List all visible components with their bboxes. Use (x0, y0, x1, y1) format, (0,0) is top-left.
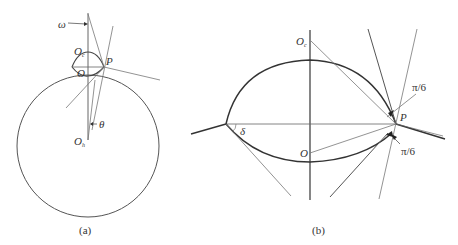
label-Oh: Oh (74, 135, 85, 148)
label-P-a: P (105, 55, 113, 67)
tangent-steep-2 (379, 29, 417, 199)
label-delta: δ (240, 125, 246, 137)
line-P-right (104, 67, 160, 80)
caption-b: (b) (312, 224, 325, 237)
label-Oc-b: Oc (296, 35, 307, 48)
line-theta (88, 80, 95, 140)
omega-arrowhead (84, 22, 88, 26)
caption-a: (a) (79, 224, 92, 237)
label-O-a: O (77, 67, 85, 79)
arrowhead-bottom-2 (391, 134, 397, 140)
theta-arrowhead (90, 122, 93, 126)
line-omega-to-P (88, 14, 104, 67)
omega-arrow (68, 23, 86, 24)
figure-canvas: ω Oc O P θ Oh (a) (0, 0, 458, 245)
line-lower-left-to-P (330, 133, 388, 197)
tangent-steep-1 (368, 29, 396, 124)
line-P-lower-left (66, 67, 104, 108)
tangent-line-delta (226, 124, 291, 196)
label-Oc-a: Oc (74, 45, 85, 58)
label-omega: ω (58, 18, 66, 30)
arrow-pi6-bottom (395, 139, 400, 144)
panel-b: Oc O P δ π/6 π/6 (b) (191, 29, 445, 237)
left-tail (191, 124, 226, 134)
panel-a: ω Oc O P θ Oh (a) (17, 13, 160, 237)
label-O-b: O (300, 147, 308, 159)
delta-angle-arc (233, 124, 236, 131)
label-pi6-top: π/6 (412, 81, 427, 93)
label-pi6-bottom: π/6 (401, 145, 416, 157)
lens-upper-arc (226, 60, 396, 124)
label-theta: θ (99, 118, 105, 130)
right-tail-thin (396, 124, 443, 136)
label-P-b: P (399, 111, 407, 123)
right-tail (396, 124, 445, 139)
